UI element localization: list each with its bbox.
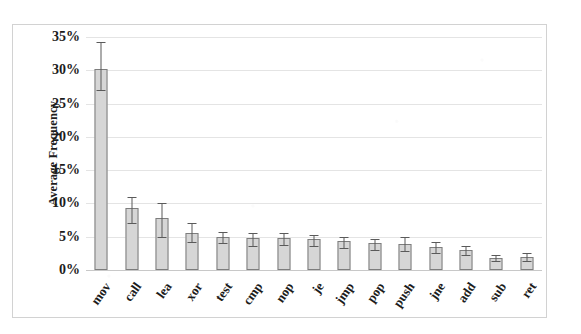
error-bar-cap-lower [249,246,258,247]
error-bar-line [465,246,466,255]
bar-group [360,37,390,270]
error-bar-cap-upper [218,232,227,233]
error-bar-line [222,232,223,243]
error-bar-cap-lower [370,250,379,251]
bar-group [420,37,450,270]
error-bar-cap-lower [188,242,197,243]
error-bar-line [192,223,193,242]
error-bar-cap-upper [492,255,501,256]
error-bar-cap-upper [279,233,288,234]
y-axis-tick-label: 35% [52,29,80,45]
error-bar-line [283,233,284,245]
error-bar-line [435,242,436,253]
bar-group [147,37,177,270]
error-bar-cap-lower [279,245,288,246]
error-bar-line [344,237,345,248]
bar-group [208,37,238,270]
bar-group [177,37,207,270]
error-bar-cap-lower [157,237,166,238]
bar-group [268,37,298,270]
error-bar-cap-upper [401,237,410,238]
error-bar-cap-lower [218,243,227,244]
error-bar-cap-upper [97,42,106,43]
error-bar-line [405,237,406,251]
y-axis-tick-label: 30% [52,62,80,78]
error-bar-cap-upper [188,223,197,224]
bar [95,69,108,270]
error-bar-line [526,253,527,260]
error-bar-line [374,239,375,250]
error-bar-cap-upper [522,253,531,254]
error-bar-cap-upper [370,239,379,240]
axis-baseline [86,270,542,271]
bar-group [116,37,146,270]
bar-group [86,37,116,270]
error-bar-line [313,235,314,246]
error-bar-cap-upper [249,233,258,234]
error-bar-line [253,233,254,246]
error-bar-cap-lower [401,251,410,252]
bar-group [329,37,359,270]
error-bar-cap-upper [157,203,166,204]
bar-group [451,37,481,270]
error-bar-cap-upper [127,197,136,198]
error-bar-cap-upper [461,246,470,247]
error-bar-cap-lower [309,246,318,247]
error-bar-cap-upper [309,235,318,236]
error-bar-cap-upper [431,242,440,243]
bar-group [299,37,329,270]
bar-group [481,37,511,270]
error-bar-cap-lower [461,255,470,256]
y-axis-tick-label: 25% [52,96,80,112]
error-bar-cap-lower [522,261,531,262]
error-bar-cap-lower [492,261,501,262]
error-bar-cap-upper [340,237,349,238]
y-axis-tick-label: 15% [52,162,80,178]
y-axis-tick-label: 0% [59,262,80,278]
error-bar-cap-lower [340,248,349,249]
plot-area: 0%5%10%15%20%25%30%35%movcallleaxortestc… [86,37,542,270]
error-bar-cap-lower [97,90,106,91]
error-bar-line [161,203,162,236]
y-axis-tick-label: 10% [52,195,80,211]
bar-group [512,37,542,270]
error-bar-line [131,197,132,224]
error-bar-cap-lower [127,223,136,224]
bar-group [390,37,420,270]
error-bar-line [101,42,102,90]
bar-group [238,37,268,270]
chart-figure: Average Frequency 0%5%10%15%20%25%30%35%… [0,0,581,334]
y-axis-tick-label: 5% [59,229,80,245]
error-bar-cap-lower [431,253,440,254]
y-axis-tick-label: 20% [52,129,80,145]
